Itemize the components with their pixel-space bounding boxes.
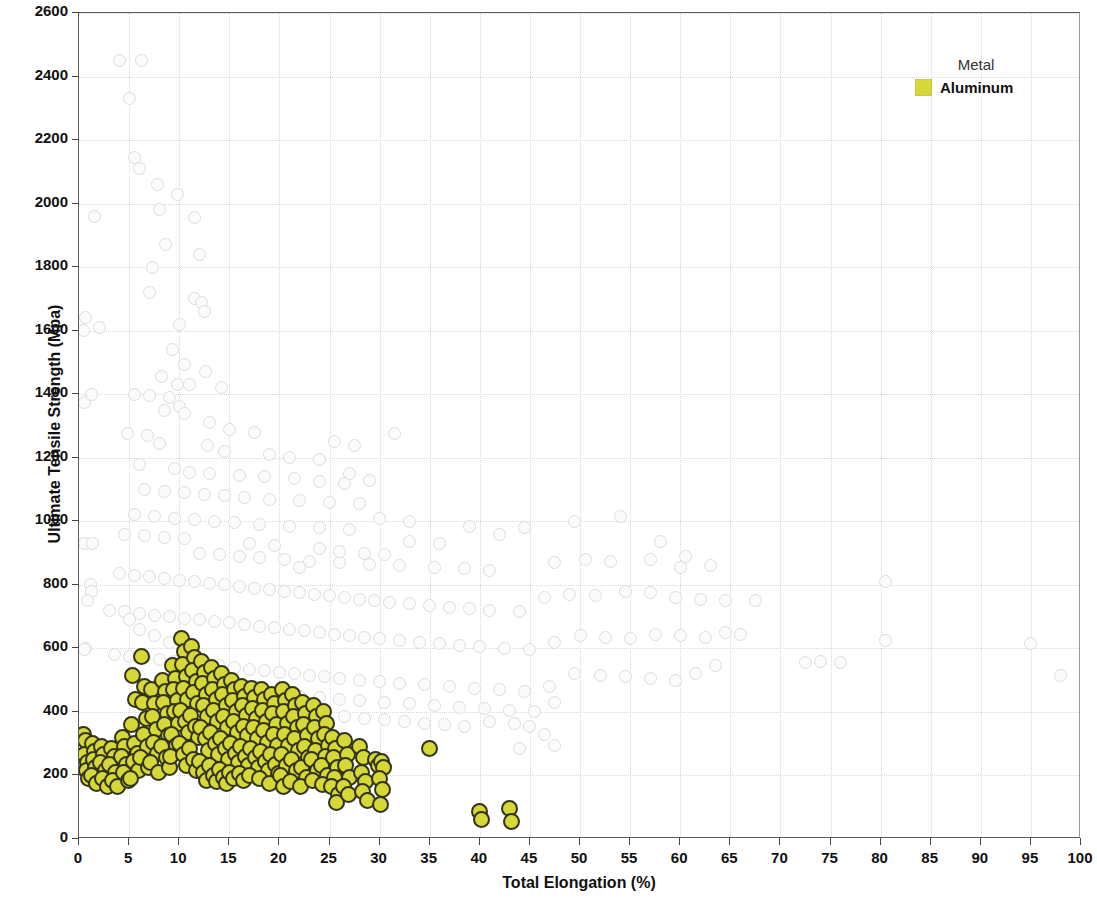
x-tick-mark — [629, 838, 630, 845]
data-point — [879, 634, 892, 647]
x-tick-label: 65 — [707, 849, 751, 866]
data-point — [421, 740, 438, 757]
data-point — [79, 311, 92, 324]
data-point — [198, 305, 211, 318]
data-point — [81, 594, 94, 607]
data-point — [278, 585, 291, 598]
data-point — [133, 458, 146, 471]
x-tick-mark — [880, 838, 881, 845]
data-point — [323, 589, 336, 602]
x-tick-mark — [1080, 838, 1081, 845]
data-point — [113, 567, 126, 580]
data-point — [238, 618, 251, 631]
y-tick-label: 800 — [8, 574, 68, 591]
x-tick-mark — [228, 838, 229, 845]
y-tick-mark — [72, 584, 79, 585]
data-point — [146, 261, 159, 274]
data-point — [548, 636, 561, 649]
x-tick-label: 5 — [106, 849, 150, 866]
data-point — [151, 178, 164, 191]
y-tick-mark — [72, 774, 79, 775]
data-point — [103, 604, 116, 617]
data-point — [143, 389, 156, 402]
x-tick-label: 90 — [958, 849, 1002, 866]
data-point — [208, 515, 221, 528]
x-tick-mark — [579, 838, 580, 845]
data-point — [243, 663, 256, 676]
data-point — [253, 551, 266, 564]
x-tick-mark — [679, 838, 680, 845]
data-point — [503, 813, 520, 830]
gridline-horizontal — [79, 331, 1079, 332]
data-point — [548, 739, 561, 752]
data-point — [263, 583, 276, 596]
data-point — [168, 462, 181, 475]
data-point — [654, 535, 667, 548]
data-point — [298, 624, 311, 637]
data-point — [133, 648, 150, 665]
data-point — [313, 453, 326, 466]
data-point — [248, 582, 261, 595]
gridline-vertical — [780, 13, 781, 837]
data-point — [171, 188, 184, 201]
data-point — [498, 642, 511, 655]
gridline-horizontal — [79, 267, 1079, 268]
data-point — [123, 92, 136, 105]
x-tick-label: 10 — [156, 849, 200, 866]
data-point — [694, 593, 707, 606]
data-point — [333, 556, 346, 569]
gridline-vertical — [680, 13, 681, 837]
data-point — [513, 742, 526, 755]
y-tick-label: 2400 — [8, 66, 68, 83]
data-point — [333, 693, 346, 706]
data-point — [118, 528, 131, 541]
x-tick-label: 0 — [56, 849, 100, 866]
data-point — [108, 648, 121, 661]
data-point — [288, 472, 301, 485]
data-point — [343, 467, 356, 480]
x-tick-mark — [479, 838, 480, 845]
data-point — [203, 467, 216, 480]
data-point — [574, 629, 587, 642]
data-point — [171, 378, 184, 391]
data-point — [263, 493, 276, 506]
data-point — [378, 713, 391, 726]
y-tick-mark — [72, 139, 79, 140]
data-point — [458, 562, 471, 575]
data-point — [508, 717, 521, 730]
x-tick-label: 30 — [357, 849, 401, 866]
gridline-vertical — [730, 13, 731, 837]
x-tick-label: 40 — [457, 849, 501, 866]
legend-entry[interactable]: Aluminum — [905, 79, 1065, 96]
x-tick-mark — [930, 838, 931, 845]
y-tick-mark — [72, 393, 79, 394]
y-tick-mark — [72, 266, 79, 267]
x-tick-label: 50 — [557, 849, 601, 866]
data-point — [333, 545, 346, 558]
data-point — [493, 683, 506, 696]
data-point — [403, 535, 416, 548]
data-point — [644, 672, 657, 685]
legend-title: Metal — [905, 56, 1065, 73]
data-point — [463, 520, 476, 533]
data-point — [353, 593, 366, 606]
data-point — [443, 680, 456, 693]
gridline-horizontal — [79, 13, 1079, 14]
data-point — [543, 680, 556, 693]
gridline-vertical — [630, 13, 631, 837]
y-tick-label: 1000 — [8, 510, 68, 527]
data-point — [353, 694, 366, 707]
data-point — [86, 537, 99, 550]
x-tick-label: 55 — [607, 849, 651, 866]
x-tick-mark — [729, 838, 730, 845]
data-point — [478, 702, 491, 715]
data-point — [158, 572, 171, 585]
data-point — [669, 674, 682, 687]
data-point — [709, 659, 722, 672]
data-point — [213, 548, 226, 561]
data-point — [463, 602, 476, 615]
data-point — [228, 516, 241, 529]
data-point — [619, 670, 632, 683]
data-point — [135, 54, 148, 67]
